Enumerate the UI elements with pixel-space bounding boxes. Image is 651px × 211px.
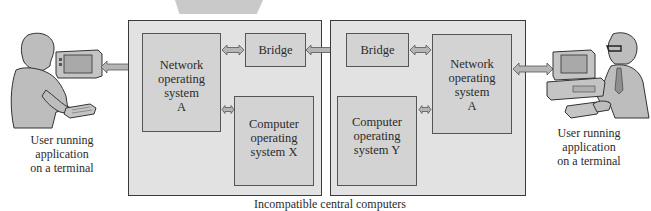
right-computer-os-box: Computer operating system Y [337,96,417,186]
left-user-terminal-icon [6,30,124,130]
right-computer-os-label: Computer operating system Y [352,115,402,157]
left-user-label: User running application on a terminal [2,133,122,175]
right-user-terminal-icon [545,30,651,122]
left-nos-bridge-arrow [221,44,245,56]
left-computer-os-box: Computer operating system X [234,96,314,186]
right-bridge-nos-arrow [409,44,432,56]
decorative-header-bar [175,0,263,14]
right-computer-os-nos-arrow [418,104,432,115]
left-computer-os-label: Computer operating system X [249,117,299,159]
right-network-os-box: Network operating system A [432,34,512,134]
right-bridge-label: Bridge [360,43,394,57]
left-network-os-label: Network operating system A [158,58,205,114]
right-network-os-label: Network operating system A [448,57,495,113]
right-user-label: User running application on a terminal [530,126,648,168]
left-bridge-box: Bridge [245,33,306,67]
right-bridge-box: Bridge [346,33,409,67]
diagram-caption: Incompatible central computers [230,197,430,211]
left-network-os-box: Network operating system A [142,33,221,132]
left-bridge-label: Bridge [258,43,292,57]
left-nos-computer-os-arrow [221,104,235,115]
